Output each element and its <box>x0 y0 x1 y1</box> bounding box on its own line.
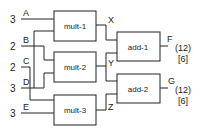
mult-1-block: mult-1 <box>54 11 96 41</box>
mult-3-block: mult-3 <box>54 95 96 125</box>
mult-3-label: mult-3 <box>64 106 87 115</box>
input-c-width: 2 <box>10 62 16 73</box>
mult-2-label: mult-2 <box>64 63 87 72</box>
input-d-label: D <box>23 77 30 87</box>
input-b-width: 2 <box>10 41 16 52</box>
input-c-label: C <box>23 56 30 66</box>
output-f-annotation1: (12) <box>175 43 191 53</box>
signal-y-label: Y <box>108 58 114 68</box>
signal-x-label: X <box>108 15 114 25</box>
input-b-label: B <box>23 35 29 45</box>
add-2-block: add-2 <box>117 74 160 103</box>
wire-z <box>96 94 117 110</box>
input-a-width: 3 <box>10 14 16 25</box>
input-d-width: 3 <box>10 83 16 94</box>
add-1-block: add-1 <box>117 32 160 61</box>
output-f-label: F <box>167 34 173 44</box>
output-f-annotation2: [6] <box>178 54 188 64</box>
mult-2-block: mult-2 <box>54 52 96 82</box>
output-g-label: G <box>168 76 175 86</box>
input-e-label: E <box>23 102 29 112</box>
input-e-width: 3 <box>10 108 16 119</box>
add-1-label: add-1 <box>128 43 149 52</box>
input-a-label: A <box>23 8 29 18</box>
circuit-diagram: 3 2 2 3 3 A B C D E mult-1 mult-2 mult-3… <box>0 0 203 133</box>
output-g-annotation2: [6] <box>178 96 188 106</box>
signal-z-label: Z <box>108 102 114 112</box>
wire-y-add2 <box>106 66 117 81</box>
mult-1-label: mult-1 <box>64 22 87 31</box>
add-2-label: add-2 <box>128 85 149 94</box>
output-g-annotation1: (12) <box>175 85 191 95</box>
wire-x <box>96 25 117 40</box>
